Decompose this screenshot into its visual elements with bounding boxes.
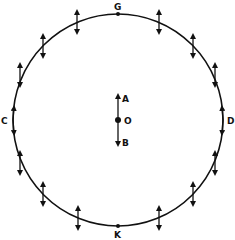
label-c: C [1, 116, 8, 126]
label-a: A [122, 94, 129, 104]
center-arrows [115, 96, 121, 144]
point-k [116, 224, 120, 228]
label-b: B [122, 138, 129, 148]
point-g [116, 12, 120, 16]
label-d: D [227, 116, 234, 126]
arrow-at-c [13, 108, 14, 133]
label-k: K [114, 230, 122, 240]
point-o [115, 117, 121, 123]
label-g: G [114, 2, 121, 12]
circle-motion-diagram: G K C D A O B [0, 0, 235, 240]
label-o: O [124, 116, 132, 126]
arrow-at-d [222, 108, 223, 133]
